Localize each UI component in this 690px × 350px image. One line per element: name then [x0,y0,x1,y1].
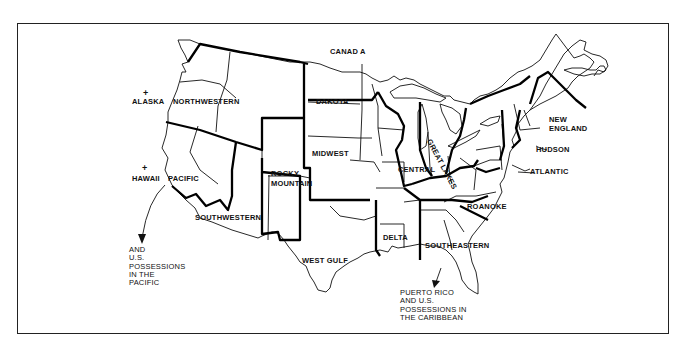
label-canada: CANAD A [330,48,366,56]
label-caribbean-possessions: PUERTO RICO AND U.S. POSSESSIONS IN THE … [400,289,467,322]
label-alaska: ALASKA [132,98,164,106]
label-hudson: HUDSON [536,146,570,154]
label-dakota: DAKOTA [316,98,349,106]
label-roanoke: ROANOKE [467,203,507,211]
lake-huron [440,104,462,134]
hawaii-marker: + [142,164,147,173]
caribbean-arrowhead [432,280,440,288]
label-west-gulf: WEST GULF [302,257,348,265]
label-pacific-possessions: AND U.S. POSSESSIONS IN THE PACIFIC [129,246,185,287]
label-atlantic: ATLANTIC [530,168,569,176]
label-new-england-1: NEW [549,116,567,124]
label-central: CENTRAL [398,166,435,174]
pacific-possessions-arrow [142,185,165,238]
label-delta: DELTA [383,234,408,242]
label-midwest: MIDWEST [312,150,349,158]
label-new-england-2: ENGLAND [549,125,587,133]
label-southwestern: SOUTHWESTERN [195,214,261,222]
atlantic-leader [512,165,530,171]
pacific-arrowhead [138,234,146,244]
label-rocky-mountain-1: ROCKY [271,170,299,178]
lake-ontario [480,116,500,126]
label-northwestern: NORTHWESTERN [173,98,240,106]
label-pacific: PACIFIC [168,175,199,183]
region-boundaries [166,44,586,260]
label-southeastern: SOUTHEASTERN [425,242,490,250]
label-hawaii: HAWAII [132,175,160,183]
label-rocky-mountain-2: MOUNTAIN [271,180,312,188]
caribbean-arrow [436,268,441,282]
lake-erie [448,130,480,148]
